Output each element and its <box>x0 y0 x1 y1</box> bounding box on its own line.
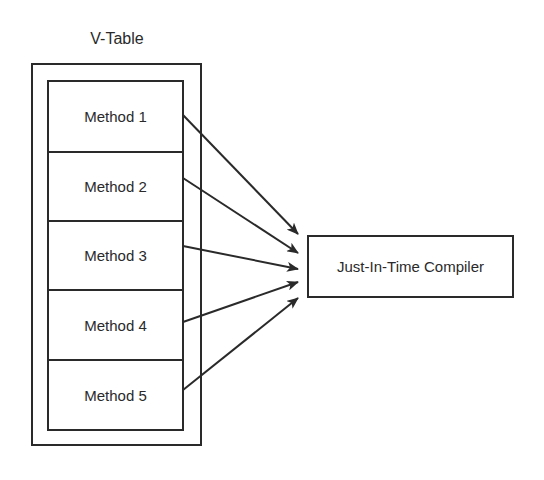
arrow-method-4 <box>183 282 298 322</box>
arrows-layer <box>0 0 544 480</box>
arrow-method-3 <box>183 246 298 269</box>
arrow-method-5 <box>183 298 298 390</box>
